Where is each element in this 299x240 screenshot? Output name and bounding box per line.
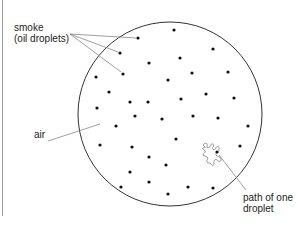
path-label-line1: path of one [243, 192, 293, 203]
droplet-dot [232, 96, 235, 99]
air-leader [48, 124, 100, 141]
container-circle [78, 22, 262, 206]
droplet-dot [211, 47, 214, 50]
droplet-dot [166, 192, 169, 195]
droplet-dot [95, 106, 98, 109]
smoke-label-line1: smoke [14, 22, 69, 33]
droplet-dot [179, 97, 182, 100]
droplet-dot [204, 92, 207, 95]
smoke-label-line2: (oil droplets) [14, 33, 69, 44]
droplet-dot [136, 36, 139, 39]
path-label-line2: droplet [243, 203, 293, 214]
droplet-dot [226, 70, 229, 73]
droplet-path-squiggle [203, 143, 221, 165]
droplet-dot [146, 100, 149, 103]
path-leader [219, 155, 246, 190]
droplet-dot [147, 61, 150, 64]
droplet-dot [98, 143, 101, 146]
droplet-dot [166, 78, 169, 81]
droplet-dot [160, 117, 163, 120]
droplet-dot [238, 144, 241, 147]
droplet-dot [128, 100, 131, 103]
smoke-droplets [94, 28, 249, 195]
droplet-dot [147, 180, 150, 183]
droplet-dot [94, 75, 97, 78]
air-label: air [34, 129, 45, 140]
droplet-dot [211, 186, 214, 189]
droplet-dot [164, 163, 167, 166]
smoke-label: smoke (oil droplets) [14, 22, 69, 44]
droplet-dot [133, 114, 136, 117]
smoke-leader-3 [70, 34, 121, 72]
droplet-dot [107, 90, 110, 93]
droplet-dot [178, 56, 181, 59]
droplet-dot [121, 72, 124, 75]
droplet-dot [147, 155, 150, 158]
droplet-dot [186, 185, 189, 188]
droplet-dot [172, 28, 175, 31]
droplet-dot [190, 71, 193, 74]
droplet-dot [216, 116, 219, 119]
droplet-dot [191, 114, 194, 117]
droplet-dot [128, 170, 131, 173]
droplet-dot [246, 124, 249, 127]
droplet-dot [119, 185, 122, 188]
droplet-dot [130, 145, 133, 148]
highlighted-droplet [215, 150, 218, 153]
droplet-dot [174, 137, 177, 140]
droplet-dot [118, 51, 121, 54]
path-label: path of one droplet [243, 192, 293, 214]
droplet-dot [114, 124, 117, 127]
